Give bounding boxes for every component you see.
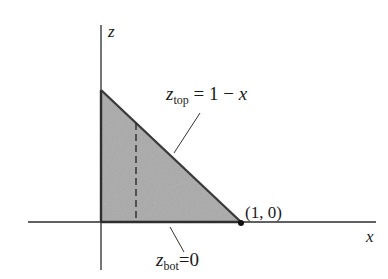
ztop-leader-line: [174, 113, 200, 153]
point-1-0-label: (1, 0): [245, 204, 282, 221]
integration-region-diagram: z x ztop = 1 − x zbot=0 (1, 0): [0, 0, 388, 279]
x-axis-label: x: [366, 228, 374, 245]
point-1-0-marker: [238, 220, 244, 226]
ztop-expr-var: x: [239, 83, 247, 104]
ztop-expr: 1 −: [209, 83, 239, 104]
zbot-equation-label: zbot=0: [156, 250, 199, 269]
zbot-subscript: bot: [163, 259, 178, 273]
ztop-subscript: top: [173, 93, 188, 107]
diagram-canvas: [0, 0, 388, 279]
ztop-equation-label: ztop = 1 − x: [166, 84, 247, 103]
z-axis-label: z: [108, 23, 115, 40]
zbot-expr: 0: [189, 249, 199, 270]
zbot-equals: =: [179, 249, 190, 270]
ztop-equals: =: [194, 83, 205, 104]
